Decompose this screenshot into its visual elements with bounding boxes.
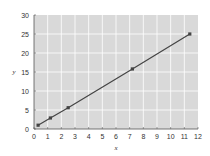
data-point-marker xyxy=(188,32,191,35)
x-tick-label: 10 xyxy=(167,133,175,140)
data-point-marker xyxy=(131,67,134,70)
x-tick-label: 7 xyxy=(128,133,132,140)
x-axis-label: x xyxy=(113,144,118,152)
x-tick-label: 5 xyxy=(100,133,104,140)
y-axis-label: y xyxy=(11,68,16,76)
y-tick-label: 10 xyxy=(21,88,29,95)
y-tick-label: 5 xyxy=(25,107,29,114)
x-tick-label: 3 xyxy=(73,133,77,140)
x-tick-label: 8 xyxy=(141,133,145,140)
data-point-marker xyxy=(49,116,52,119)
x-tick-label: 0 xyxy=(32,133,36,140)
data-point-marker xyxy=(67,106,70,109)
y-tick-label: 0 xyxy=(25,126,29,133)
x-tick-label: 11 xyxy=(181,133,188,140)
x-tick-label: 1 xyxy=(46,133,50,140)
line-chart: 0123456789101112 051015202530 x y xyxy=(0,0,210,156)
y-tick-label: 30 xyxy=(21,12,29,19)
data-point-marker xyxy=(37,124,40,127)
x-tick-label: 6 xyxy=(114,133,118,140)
y-tick-label: 25 xyxy=(21,31,29,38)
y-tick-label: 20 xyxy=(21,50,29,57)
x-tick-label: 4 xyxy=(87,133,91,140)
x-tick-label: 9 xyxy=(155,133,159,140)
y-tick-label: 15 xyxy=(21,69,29,76)
x-tick-label: 12 xyxy=(194,133,202,140)
x-tick-label: 2 xyxy=(59,133,63,140)
